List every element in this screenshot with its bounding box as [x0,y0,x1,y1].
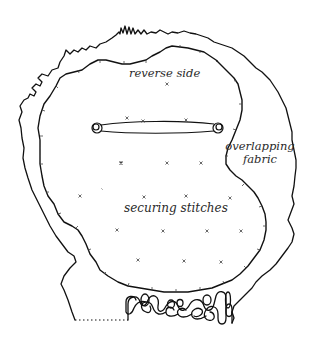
bar-tack-strand-lower [101,131,214,133]
bar-tack-strand [101,121,214,125]
label-overlapping-line2: fabric [243,152,277,166]
label-securing-stitches: securing stitches [124,202,228,214]
edge-stitch-ticks [40,45,266,292]
label-overlapping-line1: overlapping [225,139,294,153]
fabric-patch-diagram [0,0,317,360]
securing-stitch-marks [79,83,243,264]
label-overlapping-fabric: overlapping fabric [224,140,296,166]
label-reverse-side: reverse side [129,68,200,80]
bottom-looped-edge [126,296,232,324]
bar-tack[interactable] [92,121,223,133]
